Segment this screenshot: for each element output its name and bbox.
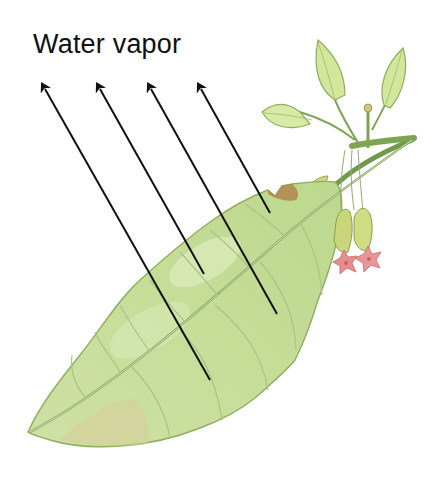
twig (300, 90, 414, 190)
main-leaf (28, 140, 412, 447)
vapor-arrow-4 (201, 89, 270, 213)
vapor-arrow-2 (100, 89, 204, 274)
leaf-illustration (0, 0, 445, 483)
transpiration-diagram: Water vapor (0, 0, 445, 483)
young-leaf-3 (262, 104, 310, 127)
flower-bud-2 (354, 208, 372, 250)
